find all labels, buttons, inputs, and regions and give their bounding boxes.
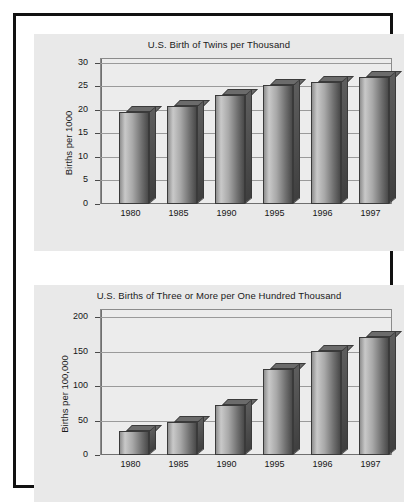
ytick-label-twins-25: 25 xyxy=(34,80,88,90)
bar-front-face xyxy=(263,85,293,204)
xtick-label-triplets-1997: 1997 xyxy=(346,459,395,469)
ytick-mark-triplets-200 xyxy=(95,317,100,318)
bar-front-face xyxy=(263,369,293,455)
y-axis-line-triplets xyxy=(101,310,102,455)
bar-front-face xyxy=(119,112,149,204)
bar-side-face xyxy=(245,89,252,204)
bar-twins-1990 xyxy=(215,89,252,204)
xtick-label-triplets-1990: 1990 xyxy=(202,459,251,469)
bar-front-face xyxy=(215,405,245,455)
bar-twins-1996 xyxy=(311,76,348,204)
chart-panel-twins: U.S. Birth of Twins per Thousand Births … xyxy=(34,34,404,251)
plot-area-twins xyxy=(100,58,392,204)
bar-twins-1985 xyxy=(167,100,204,204)
ytick-mark-twins-0 xyxy=(95,204,100,205)
bar-triplets-1985 xyxy=(167,416,204,455)
xtick-label-twins-1997: 1997 xyxy=(346,208,395,218)
ytick-label-twins-5: 5 xyxy=(34,174,88,184)
figure-outer-frame: U.S. Birth of Twins per Thousand Births … xyxy=(13,13,393,488)
xtick-label-twins-1990: 1990 xyxy=(202,208,251,218)
bar-side-face xyxy=(197,416,204,455)
bar-side-face xyxy=(389,71,396,204)
xtick-label-triplets-1980: 1980 xyxy=(106,459,155,469)
bar-side-face xyxy=(293,79,300,204)
ytick-label-twins-15: 15 xyxy=(34,127,88,137)
plot-area-triplets xyxy=(100,309,392,455)
bar-twins-1997 xyxy=(359,71,396,204)
bar-front-face xyxy=(167,422,197,455)
bar-side-face xyxy=(341,345,348,455)
ytick-label-triplets-50: 50 xyxy=(34,415,88,425)
ytick-label-twins-20: 20 xyxy=(34,104,88,114)
xtick-label-twins-1985: 1985 xyxy=(154,208,203,218)
chart-panel-triplets: U.S. Births of Three or More per One Hun… xyxy=(34,285,404,502)
bar-side-face xyxy=(197,100,204,204)
ytick-mark-twins-10 xyxy=(95,157,100,158)
ytick-label-triplets-100: 100 xyxy=(34,380,88,390)
gridline-triplets-200 xyxy=(101,317,391,318)
bar-side-face xyxy=(149,425,156,455)
ytick-mark-twins-15 xyxy=(95,133,100,134)
chart-title-twins: U.S. Birth of Twins per Thousand xyxy=(34,39,404,50)
bar-front-face xyxy=(359,77,389,204)
bar-front-face xyxy=(119,431,149,455)
ytick-label-twins-30: 30 xyxy=(34,57,88,67)
ytick-mark-twins-25 xyxy=(95,86,100,87)
y-axis-line-twins xyxy=(101,59,102,204)
ytick-label-twins-10: 10 xyxy=(34,151,88,161)
bar-side-face xyxy=(293,363,300,455)
ytick-mark-triplets-150 xyxy=(95,352,100,353)
ytick-label-twins-0: 0 xyxy=(34,198,88,208)
xtick-label-twins-1996: 1996 xyxy=(298,208,347,218)
bar-triplets-1980 xyxy=(119,425,156,455)
bar-triplets-1996 xyxy=(311,345,348,455)
bar-side-face xyxy=(149,106,156,204)
bar-front-face xyxy=(215,95,245,204)
bar-front-face xyxy=(311,351,341,455)
ytick-mark-twins-5 xyxy=(95,180,100,181)
ytick-mark-twins-20 xyxy=(95,110,100,111)
bar-triplets-1997 xyxy=(359,331,396,455)
ytick-mark-twins-30 xyxy=(95,63,100,64)
xtick-label-triplets-1996: 1996 xyxy=(298,459,347,469)
bar-twins-1995 xyxy=(263,79,300,204)
bar-front-face xyxy=(167,106,197,204)
bar-twins-1980 xyxy=(119,106,156,204)
ytick-label-triplets-0: 0 xyxy=(34,449,88,459)
bar-front-face xyxy=(311,82,341,204)
ytick-label-triplets-200: 200 xyxy=(34,311,88,321)
ytick-mark-triplets-50 xyxy=(95,421,100,422)
xtick-label-twins-1995: 1995 xyxy=(250,208,299,218)
xtick-label-twins-1980: 1980 xyxy=(106,208,155,218)
ytick-mark-triplets-0 xyxy=(95,455,100,456)
x-axis-tick-row-triplets: 1980 1985 1990 1995 1996 1997 xyxy=(100,459,392,473)
xtick-label-triplets-1995: 1995 xyxy=(250,459,299,469)
x-axis-tick-row-twins: 1980 1985 1990 1995 1996 1997 xyxy=(100,208,392,222)
y-axis-label-twins: Births per 1000 xyxy=(63,110,74,174)
bar-front-face xyxy=(359,337,389,455)
bar-triplets-1990 xyxy=(215,399,252,455)
bar-triplets-1995 xyxy=(263,363,300,455)
xtick-label-triplets-1985: 1985 xyxy=(154,459,203,469)
gridline-twins-30 xyxy=(101,63,391,64)
chart-title-triplets: U.S. Births of Three or More per One Hun… xyxy=(34,290,404,301)
ytick-label-triplets-150: 150 xyxy=(34,346,88,356)
bar-side-face xyxy=(341,76,348,204)
bar-side-face xyxy=(389,331,396,455)
bar-side-face xyxy=(245,399,252,455)
ytick-mark-triplets-100 xyxy=(95,386,100,387)
